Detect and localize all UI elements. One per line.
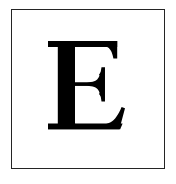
glyph-card-canvas: E xyxy=(0,0,176,184)
glyph-character: E xyxy=(46,34,126,134)
